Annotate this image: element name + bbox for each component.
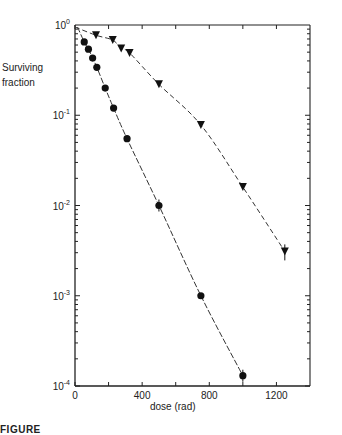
y-tick-label: 10-4 [53,379,70,392]
triangle-marker [117,44,125,52]
y-tick-label: 10-2 [53,199,70,212]
circle-marker [89,54,96,61]
y-axis-label-line2: fraction [2,75,43,90]
y-tick-label: 10-1 [53,108,70,121]
circle-marker [102,84,109,91]
circle-marker [123,135,130,142]
circle-marker [85,46,92,53]
fit-curves [75,27,285,376]
x-tick-label: 1200 [265,390,288,401]
circle-marker [197,292,204,299]
circle-marker [110,105,117,112]
triangle-marker [197,121,205,129]
figure-caption: FIGURE [0,424,41,435]
triangles-fit-curve [75,27,285,251]
triangle-marker [92,31,100,39]
triangle-marker [109,36,117,44]
circle-marker [93,64,100,71]
y-tick-label: 10-3 [53,289,70,302]
x-tick-label: 0 [72,390,78,401]
x-tick-label: 400 [134,390,151,401]
data-points [81,31,289,381]
y-axis-label: Surviving fraction [2,60,43,90]
axes: 0400800120010010-110-210-310-4 [53,18,310,401]
circles-fit-curve [78,27,243,376]
circle-marker [81,38,88,45]
y-axis-label-line1: Surviving [2,60,43,75]
triangle-marker [239,183,247,191]
x-tick-label: 800 [201,390,218,401]
y-tick-label: 100 [55,18,70,31]
x-axis-label: dose (rad) [150,401,196,412]
